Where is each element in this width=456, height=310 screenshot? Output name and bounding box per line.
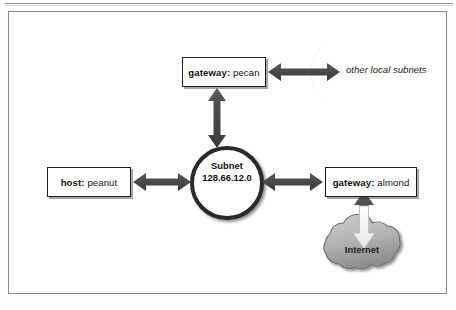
node-gateway-almond-role: gateway: [333,177,375,188]
link-subnet-to-almond [262,173,323,191]
subnet-circle [192,148,262,218]
node-host-peanut[interactable]: host: peanut [47,167,131,197]
node-gateway-pecan-label: gateway: pecan [188,67,259,78]
link-pecan-to-other-subnets [268,63,340,81]
node-gateway-almond[interactable]: gateway: almond [325,167,417,197]
node-host-peanut-label: host: peanut [61,177,118,188]
node-gateway-pecan[interactable]: gateway: pecan [182,57,266,87]
node-host-peanut-role: host: [61,177,85,188]
node-host-peanut-name: peanut [87,177,117,188]
node-gateway-pecan-role: gateway: [188,67,230,78]
internet-cloud-label: Internet [316,244,408,255]
figure-page: gateway: pecan host: peanut gateway: alm… [0,0,456,310]
node-gateway-almond-label: gateway: almond [333,177,410,188]
link-pecan-to-subnet [208,88,226,148]
other-local-subnets-label: other local subnets [346,64,427,75]
network-diagram-canvas [0,0,456,310]
node-gateway-almond-name: almond [377,177,409,188]
link-peanut-to-subnet [133,173,191,191]
node-gateway-pecan-name: pecan [233,67,260,78]
